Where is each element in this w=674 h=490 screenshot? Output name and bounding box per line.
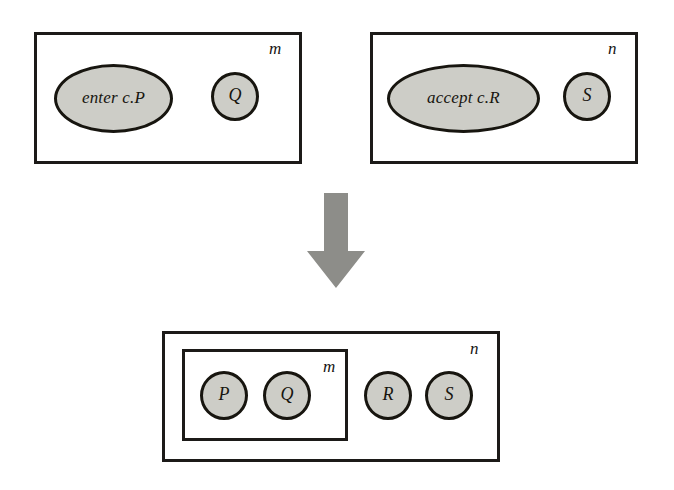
node-q-after-label: Q [280, 384, 293, 405]
node-enter-c-p: enter c.P [54, 64, 173, 133]
down-arrow-icon [302, 193, 370, 291]
node-r-after: R [364, 371, 412, 420]
node-accept-c-r-label: accept c.R [427, 88, 500, 108]
after-outer-box-label: n [470, 340, 479, 357]
after-inner-box-label: m [323, 358, 335, 375]
before-left-box-label: m [269, 40, 281, 57]
node-accept-c-r: accept c.R [387, 64, 540, 133]
node-enter-c-p-label: enter c.P [82, 88, 145, 108]
node-p-after-label: P [218, 384, 229, 405]
node-r-after-label: R [382, 384, 393, 405]
node-q-after: Q [263, 371, 311, 420]
node-s-after-label: S [444, 384, 453, 405]
node-s-before: S [563, 72, 611, 121]
node-s-before-label: S [582, 85, 591, 106]
node-s-after: S [425, 371, 473, 420]
node-q-before-label: Q [228, 85, 241, 106]
node-q-before: Q [211, 72, 259, 121]
node-p-after: P [200, 371, 248, 420]
diagram-canvas: m enter c.P Q n accept c.R S n m P Q R S [0, 0, 674, 490]
before-right-box-label: n [608, 40, 617, 57]
